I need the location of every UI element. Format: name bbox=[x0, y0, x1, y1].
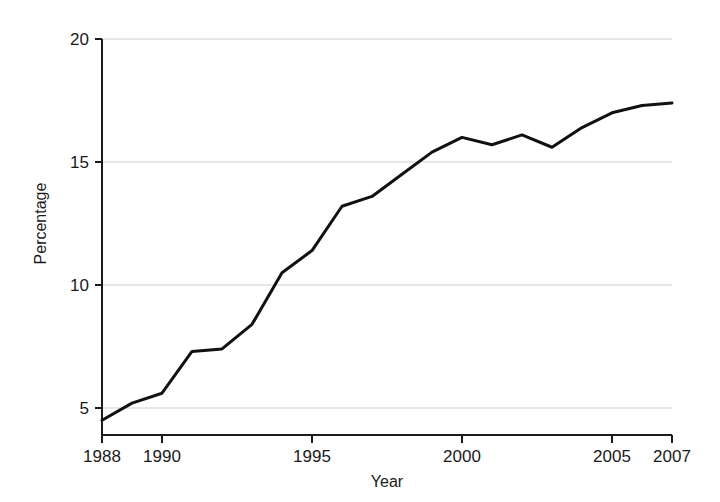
x-tick-label-2000: 2000 bbox=[443, 447, 481, 466]
y-tick-label-10: 10 bbox=[70, 276, 89, 295]
y-tick-label-5: 5 bbox=[80, 399, 89, 418]
x-tick-label-2005: 2005 bbox=[593, 447, 631, 466]
y-tick-label-15: 15 bbox=[70, 153, 89, 172]
x-tick-label-1988: 1988 bbox=[83, 447, 121, 466]
chart-container: 5101520 198819901995200020052007 Percent… bbox=[0, 0, 720, 502]
line-chart: 5101520 198819901995200020052007 Percent… bbox=[0, 0, 720, 502]
y-tick-label-20: 20 bbox=[70, 30, 89, 49]
x-tick-label-1990: 1990 bbox=[143, 447, 181, 466]
x-tick-label-1995: 1995 bbox=[293, 447, 331, 466]
y-axis-title: Percentage bbox=[32, 182, 49, 264]
chart-background bbox=[0, 0, 720, 502]
x-axis-title: Year bbox=[371, 473, 404, 490]
x-tick-label-2007: 2007 bbox=[653, 447, 691, 466]
